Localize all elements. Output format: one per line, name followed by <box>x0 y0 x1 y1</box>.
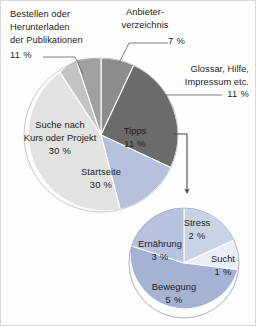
label-bewegung-percent: 5 % <box>137 294 211 307</box>
label-anbieter-line2: verzeichnis <box>105 19 185 32</box>
chart-figure: Bestellen oder Herunterladen der Publika… <box>0 0 256 326</box>
label-glossar-line2: Impressum etc. <box>131 76 249 89</box>
label-suche-line2: Kurs oder Projekt <box>6 132 114 145</box>
label-tipps-name: Tipps <box>109 125 161 138</box>
label-sucht-name: Sucht <box>201 253 245 266</box>
label-startseite-name: Startseite <box>63 166 139 179</box>
label-suche-line1: Suche nach <box>10 119 110 132</box>
label-ernaehrung-name: Ernährung <box>123 238 197 251</box>
label-suche-percent: 30 % <box>10 145 110 158</box>
label-glossar-line1: Glossar, Hilfe, <box>131 63 249 76</box>
label-bestellen-line1: Bestellen oder <box>10 8 70 21</box>
label-bestellen-line2: Herunterladen <box>10 21 70 34</box>
label-startseite-percent: 30 % <box>63 179 139 192</box>
label-anbieter-percent: 7 % <box>127 35 185 48</box>
label-glossar-percent: 11 % <box>131 88 249 101</box>
label-anbieter-line1: Anbieter- <box>105 6 185 19</box>
label-bestellen-line3: der Publikationen <box>10 34 83 47</box>
label-stress-name: Stress <box>173 217 221 230</box>
label-bewegung-name: Bewegung <box>137 281 211 294</box>
label-ernaehrung-percent: 3 % <box>123 251 197 264</box>
label-bestellen-percent: 11 % <box>10 49 32 62</box>
label-tipps-percent: 11 % <box>109 138 161 151</box>
label-sucht-percent: 1 % <box>201 266 245 279</box>
